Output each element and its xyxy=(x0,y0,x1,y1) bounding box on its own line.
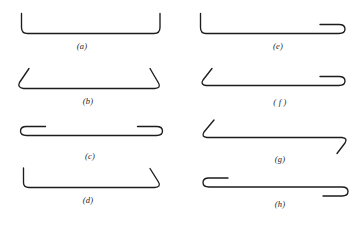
shape-layer xyxy=(19,14,348,197)
panel-label-a: (a) xyxy=(77,42,88,51)
shape-a xyxy=(22,14,161,34)
panel-label-f: ( f ) xyxy=(273,98,286,107)
shape-e xyxy=(201,14,346,34)
shape-c xyxy=(21,127,163,136)
panel-label-e: (e) xyxy=(273,42,283,51)
panel-label-c: (c) xyxy=(85,152,95,161)
panel-label-b: (b) xyxy=(83,97,94,106)
panel-label-g: (g) xyxy=(275,155,286,164)
panel-label-h: (h) xyxy=(275,200,286,209)
shape-f xyxy=(202,69,345,86)
figure-panel-grid: (a)(b)(c)(d)(e)( f )(g)(h) xyxy=(0,0,364,225)
shape-h xyxy=(203,178,348,196)
line-drawing-canvas xyxy=(0,0,364,225)
panel-label-d: (d) xyxy=(83,196,94,205)
shape-b xyxy=(19,69,160,89)
shape-d xyxy=(24,168,160,188)
shape-g xyxy=(203,120,346,154)
